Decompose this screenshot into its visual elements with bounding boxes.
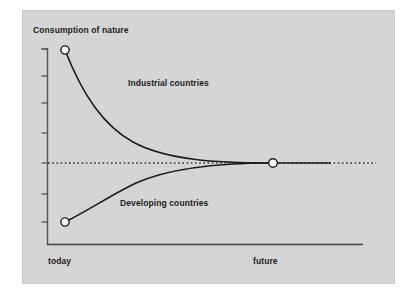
x-tick-label-today: today [48, 256, 71, 266]
annotation-developing-countries: Developing countries [120, 198, 208, 208]
marker-convergence-point [269, 159, 278, 168]
marker-developing-start [61, 218, 69, 226]
curve-developing-countries [65, 163, 272, 222]
y-axis-title: Consumption of nature [33, 25, 129, 35]
x-tick-label-future: future [253, 256, 278, 266]
y-axis-ticks [42, 49, 48, 222]
marker-industrial-start [61, 46, 69, 54]
annotation-industrial-countries: Industrial countries [128, 78, 209, 88]
chart-plot-area [0, 0, 417, 294]
curve-industrial-countries [65, 50, 272, 163]
figure-container: Consumption of nature Industrial countri… [0, 0, 417, 294]
